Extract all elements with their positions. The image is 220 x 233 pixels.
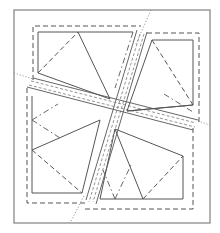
steep-strip — [86, 30, 147, 204]
quadrant-bottom-left — [32, 96, 100, 193]
shallow-strip-centerline-right — [198, 121, 210, 125]
shallow-strip — [27, 78, 198, 130]
quadrant-bottom-right — [100, 129, 183, 199]
quadrant-top-right — [127, 40, 193, 112]
shallow-strip-centerline-left — [14, 73, 33, 79]
steep-strip-centerline-bottom — [70, 196, 84, 223]
outer-border — [14, 10, 210, 223]
diagram-canvas — [0, 0, 220, 233]
quadrant-top-left — [38, 32, 133, 99]
pinwheel-block-diagram — [0, 0, 220, 233]
